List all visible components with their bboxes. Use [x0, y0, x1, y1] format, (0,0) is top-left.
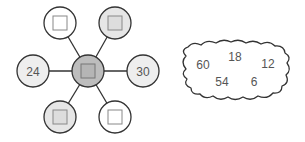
node-left: 24 [17, 55, 49, 87]
node-bottom-left[interactable] [44, 101, 76, 133]
node-right-label: 30 [136, 65, 150, 79]
node-center[interactable] [72, 55, 104, 87]
answer-box[interactable] [53, 110, 67, 124]
node-left-label: 24 [26, 65, 40, 79]
node-top-right[interactable] [99, 7, 131, 39]
node-right: 30 [127, 55, 159, 87]
node-bottom-right[interactable] [99, 101, 131, 133]
node-top-left[interactable] [44, 7, 76, 39]
cloud-number: 12 [261, 57, 275, 71]
cloud-number: 60 [196, 58, 210, 72]
cloud-number: 6 [251, 75, 258, 89]
answer-box[interactable] [53, 16, 67, 30]
answer-box[interactable] [108, 16, 122, 30]
cloud-number: 54 [215, 75, 229, 89]
answer-box[interactable] [81, 64, 95, 78]
number-web-diagram: 24 30 60 18 12 54 6 [0, 0, 305, 142]
number-cloud: 60 18 12 54 6 [183, 40, 289, 99]
answer-box[interactable] [108, 110, 122, 124]
cloud-number: 18 [228, 50, 242, 64]
